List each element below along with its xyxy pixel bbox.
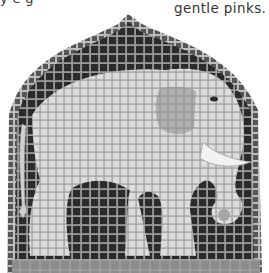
mosaic-base-strip	[12, 259, 260, 273]
elephant-ear	[156, 87, 197, 134]
elephant-mosaic-image	[0, 0, 269, 273]
elephant-eye	[210, 97, 218, 102]
trunk-tip	[218, 209, 230, 221]
